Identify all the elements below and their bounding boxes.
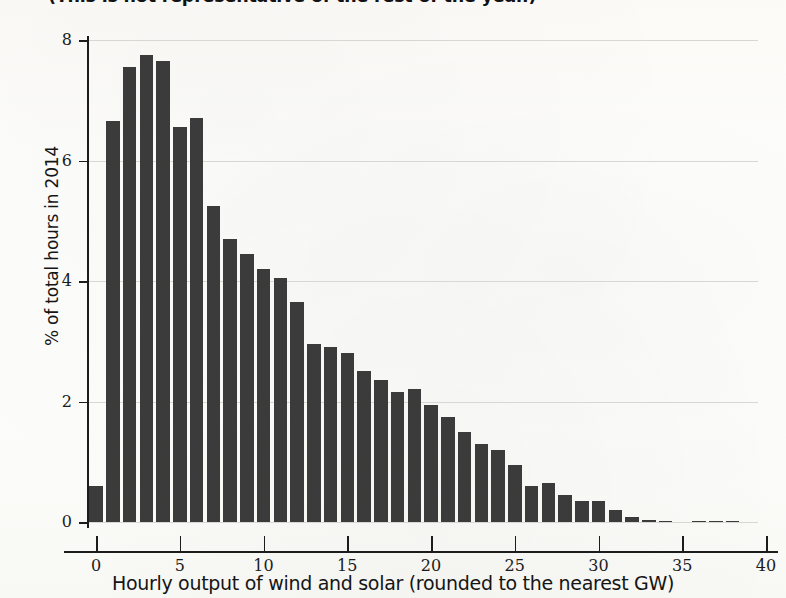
bar: [391, 392, 405, 522]
x-tick-mark-10: [264, 536, 266, 552]
bar: [274, 278, 288, 522]
x-tick-mark-25: [515, 536, 517, 552]
x-tick-mark-15: [347, 536, 349, 552]
bar: [508, 465, 522, 522]
gridline-y-0: [88, 522, 758, 523]
bar: [290, 302, 304, 522]
x-axis-line: [64, 551, 778, 553]
bar: [709, 521, 723, 522]
bar: [458, 432, 472, 522]
y-tick-mark-8: [79, 40, 89, 42]
bar: [424, 405, 438, 522]
bar: [575, 501, 589, 522]
bar: [89, 486, 103, 522]
bar: [123, 67, 137, 522]
bar: [592, 501, 606, 522]
x-tick-mark-5: [180, 536, 182, 552]
bar: [156, 61, 170, 522]
bar: [441, 417, 455, 522]
bar: [257, 269, 271, 522]
y-tick-label: 8: [46, 30, 72, 49]
bar: [190, 118, 204, 522]
bar: [173, 127, 187, 522]
bar: [542, 483, 556, 522]
bar: [357, 371, 371, 522]
y-tick-mark-6: [79, 161, 89, 163]
x-tick-mark-30: [599, 536, 601, 552]
bar: [307, 344, 321, 522]
bar-series: [88, 40, 758, 522]
y-tick-label: 0: [46, 512, 72, 531]
bar: [408, 389, 422, 522]
bar: [491, 450, 505, 522]
x-tick-mark-0: [96, 536, 98, 552]
bar: [558, 495, 572, 522]
bar: [140, 55, 154, 522]
x-tick-mark-40: [766, 536, 768, 552]
bar: [475, 444, 489, 522]
y-tick-mark-2: [79, 402, 89, 404]
plot-area: [88, 40, 758, 522]
y-tick-mark-0: [79, 522, 89, 524]
bar: [525, 486, 539, 522]
bar: [207, 206, 221, 522]
bar: [240, 254, 254, 522]
x-tick-mark-35: [682, 536, 684, 552]
bar: [223, 239, 237, 522]
x-tick-mark-20: [431, 536, 433, 552]
chart-title: (This is not representative of the rest …: [48, 0, 748, 6]
bar: [374, 380, 388, 522]
x-axis-title: Hourly output of wind and solar (rounded…: [0, 572, 786, 594]
y-axis-title: % of total hours in 2014: [42, 96, 62, 396]
bar: [726, 521, 740, 522]
bar: [625, 517, 639, 522]
bar: [341, 353, 355, 522]
bar: [642, 520, 656, 522]
bar: [609, 510, 623, 522]
bar: [106, 121, 120, 522]
bar: [692, 521, 706, 522]
bar: [659, 521, 673, 522]
y-tick-mark-4: [79, 281, 89, 283]
bar: [324, 347, 338, 522]
